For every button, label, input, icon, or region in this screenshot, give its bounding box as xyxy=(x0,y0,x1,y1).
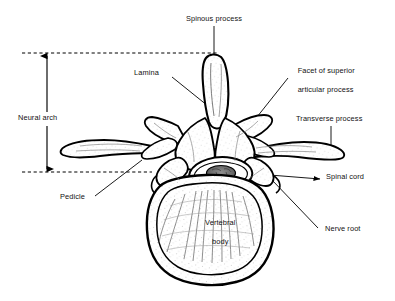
vertebral-body-label-line-2: body xyxy=(212,237,228,246)
label-spinal-cord: Spinal cord xyxy=(326,172,364,181)
nerve-root-right xyxy=(274,176,280,193)
leader-pedicle xyxy=(95,160,142,196)
facet-label-line-1: Facet of superior xyxy=(298,66,355,75)
label-lamina: Lamina xyxy=(134,68,159,77)
transverse-process-left xyxy=(61,140,154,157)
label-pedicle: Pedicle xyxy=(60,192,85,201)
leader-nerve-root xyxy=(272,180,318,228)
anatomical-figure: Spinous process Lamina Facet of superior… xyxy=(0,0,395,301)
label-facet-of-superior-articular-process: Facet of superior articular process xyxy=(289,57,355,104)
label-spinous-process: Spinous process xyxy=(176,14,252,23)
label-vertebral-body: Vertebral body xyxy=(180,209,252,256)
vertebral-body-label-line-1: Vertebral xyxy=(205,218,235,227)
facet-label-line-2: articular process xyxy=(298,85,354,94)
label-transverse-process: Transverse process xyxy=(296,114,362,123)
label-nerve-root: Nerve root xyxy=(325,224,361,233)
label-neural-arch: Neural arch xyxy=(18,113,57,122)
inferior-articular-process-left xyxy=(142,138,178,159)
